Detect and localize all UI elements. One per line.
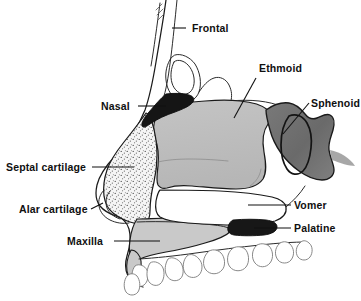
label-septal-cartilage: Septal cartilage (6, 161, 86, 173)
label-frontal: Frontal (192, 22, 229, 34)
label-vomer: Vomer (294, 199, 327, 211)
label-ethmoid: Ethmoid (259, 62, 302, 74)
label-palatine: Palatine (294, 222, 335, 234)
label-alar-cartilage: Alar cartilage (19, 203, 88, 215)
sphenoid-bone (266, 103, 355, 180)
label-nasal: Nasal (101, 100, 130, 112)
septal-cartilage (104, 113, 157, 224)
anatomy-figure: Frontal Nasal Ethmoid Sphenoid Septal ca… (0, 0, 361, 301)
label-sphenoid: Sphenoid (311, 97, 360, 109)
nasal-septum-diagram: Frontal Nasal Ethmoid Sphenoid Septal ca… (0, 0, 361, 301)
label-maxilla: Maxilla (67, 235, 103, 247)
